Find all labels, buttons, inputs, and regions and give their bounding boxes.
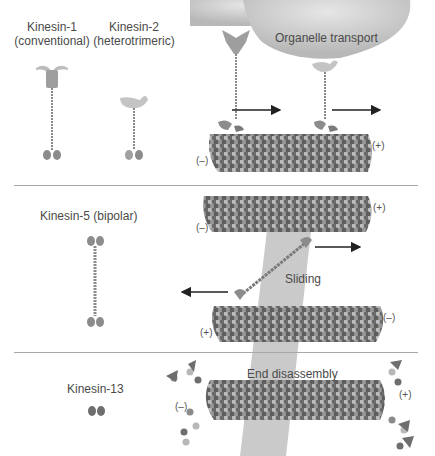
diagram-canvas <box>0 0 435 456</box>
bottom-minus-end-label: (–) <box>383 312 395 323</box>
microtubule-top <box>203 196 372 232</box>
kinesin-2-motor <box>120 96 148 160</box>
top-plus-end-label: (+) <box>373 202 386 213</box>
motor-subtitle: (conventional) <box>14 34 90 48</box>
kinesin-5-motor <box>87 236 104 327</box>
kinesin-13-label: Kinesin-13 <box>67 382 124 396</box>
microtubule <box>209 134 372 172</box>
kinesin-2-attached <box>312 60 338 132</box>
organelle-cargo <box>190 0 410 59</box>
plus-end-label: (+) <box>372 140 385 151</box>
top-minus-end-label: (–) <box>196 222 208 233</box>
kinesin-13-motor <box>88 406 105 416</box>
microtubule-bottom <box>212 306 383 342</box>
kinesin-2-label: Kinesin-2 (heterotrimeric) <box>92 20 176 48</box>
minus-end-label: (–) <box>175 401 187 412</box>
kinesin-1-motor <box>36 66 68 160</box>
minus-end-label: (–) <box>196 155 208 166</box>
motor-subtitle: (heterotrimeric) <box>92 34 176 48</box>
kinesin-1-attached <box>218 30 250 132</box>
free-tubulin-plus-end <box>389 360 415 450</box>
panel-divider <box>14 352 418 353</box>
panel-divider <box>14 185 418 186</box>
motor-name: Kinesin-1 <box>14 20 90 34</box>
bottom-plus-end-label: (+) <box>200 327 213 338</box>
disassembly-label: End disassembly <box>247 367 338 381</box>
cargo-label: Organelle transport <box>275 31 378 45</box>
kinesin-5-label: Kinesin-5 (bipolar) <box>40 209 137 223</box>
sliding-label: Sliding <box>285 272 321 286</box>
microtubule-disassembling <box>206 380 385 420</box>
kinesin-1-label: Kinesin-1 (conventional) <box>14 20 90 48</box>
motor-name: Kinesin-2 <box>92 20 176 34</box>
plus-end-label: (+) <box>399 389 412 400</box>
